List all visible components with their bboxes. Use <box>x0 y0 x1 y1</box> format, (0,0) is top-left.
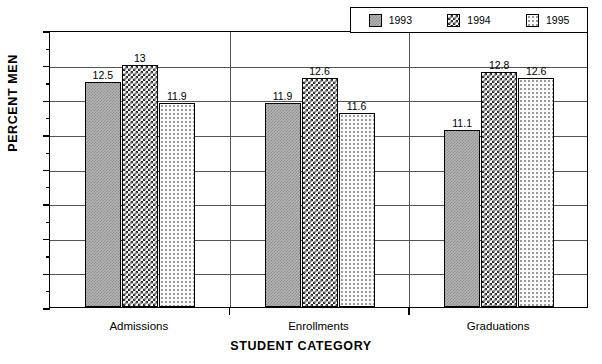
y-tick-major <box>43 31 50 32</box>
legend-swatch-1994 <box>447 14 460 27</box>
plot-area: 12.51311.911.912.611.611.112.812.6 67891… <box>49 31 588 308</box>
bar-enrollments-1993 <box>265 103 301 307</box>
bar-enrollments-1995 <box>339 113 375 307</box>
legend-label-1994: 1994 <box>467 14 490 26</box>
plot-inner: 12.51311.911.912.611.611.112.812.6 <box>50 32 587 307</box>
chart-legend: 199319941995 <box>350 7 588 33</box>
y-tick-major <box>43 274 50 275</box>
bar-value-label: 12.6 <box>508 66 564 77</box>
y-tick-minor <box>46 83 50 84</box>
y-tick-minor <box>46 291 50 292</box>
y-tick-major <box>43 204 50 205</box>
legend-entry-1995[interactable]: 1995 <box>526 14 569 27</box>
x-category-label-admissions: Admissions <box>49 320 229 332</box>
y-tick-major <box>43 170 50 171</box>
y-tick-major <box>43 66 50 67</box>
x-tick <box>229 308 230 315</box>
bar-graduations-1995 <box>518 78 554 307</box>
legend-label-1995: 1995 <box>546 14 569 26</box>
x-axis-title: STUDENT CATEGORY <box>0 339 602 353</box>
bar-admissions-1995 <box>159 103 195 307</box>
y-axis-title: PERCENT MEN <box>6 54 20 152</box>
y-tick-minor <box>46 153 50 154</box>
y-tick-minor <box>46 256 50 257</box>
legend-label-1993: 1993 <box>389 14 412 26</box>
y-tick-major <box>43 239 50 240</box>
x-category-label-graduations: Graduations <box>408 320 588 332</box>
group-divider <box>409 32 410 307</box>
legend-swatch-1995 <box>526 14 539 27</box>
group-divider <box>230 32 231 307</box>
legend-swatch-1993 <box>369 14 382 27</box>
bar-value-label: 13 <box>112 53 168 64</box>
chart-title: PERCENT MEN BY STUDENT CATEGORY AND YEAR <box>0 0 602 2</box>
x-tick <box>408 308 409 315</box>
y-tick-minor <box>46 187 50 188</box>
bar-graduations-1994 <box>481 72 517 307</box>
y-tick-minor <box>46 222 50 223</box>
legend-entry-1994[interactable]: 1994 <box>447 14 490 27</box>
y-tick-major <box>43 135 50 136</box>
bar-value-label: 12.6 <box>292 66 348 77</box>
y-tick-minor <box>46 118 50 119</box>
y-tick-major <box>43 101 50 102</box>
y-tick-minor <box>46 49 50 50</box>
bar-value-label: 11.9 <box>149 91 205 102</box>
legend-entry-1993[interactable]: 1993 <box>369 14 412 27</box>
x-category-label-enrollments: Enrollments <box>229 320 409 332</box>
bar-value-label: 11.6 <box>329 101 385 112</box>
bar-enrollments-1994 <box>302 78 338 307</box>
bar-graduations-1993 <box>444 130 480 307</box>
bar-admissions-1993 <box>85 82 121 307</box>
